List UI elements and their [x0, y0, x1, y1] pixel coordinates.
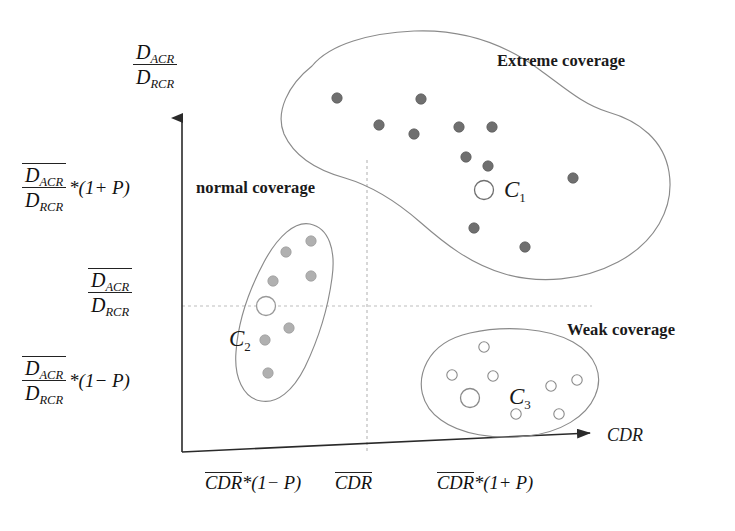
data-point [554, 409, 564, 419]
data-point [416, 94, 426, 104]
cluster-c1-points [332, 93, 578, 252]
data-point [268, 276, 278, 286]
region-label-normal: normal coverage [196, 180, 315, 197]
data-point [263, 368, 273, 378]
data-point [281, 247, 291, 257]
region-label-extreme: Extreme coverage [497, 53, 625, 70]
x-tick-right-base: CDR [437, 472, 474, 493]
data-point [306, 236, 316, 246]
cluster-c3-name: C [509, 384, 524, 409]
x-tick-right-suffix: *(1+ P) [474, 473, 533, 493]
y-tick-lower: DACR DRCR *(1− P) [22, 356, 130, 404]
data-point [469, 223, 479, 233]
data-point [306, 271, 316, 281]
data-point [483, 161, 493, 171]
cluster-c1-label: C1 [504, 178, 526, 201]
data-point [520, 242, 530, 252]
cluster-c3-label: C3 [509, 385, 531, 408]
data-point [409, 129, 419, 139]
cluster-outline-c3 [421, 329, 598, 438]
data-point [546, 381, 556, 391]
cluster-c3-sub: 3 [524, 397, 531, 412]
diagram-svg [0, 0, 735, 531]
y-tick-mid: DACR DRCR [88, 268, 135, 316]
cluster-c1-sub: 1 [519, 190, 526, 205]
data-point [487, 122, 497, 132]
data-point [488, 371, 498, 381]
x-tick-center: CDR [335, 472, 372, 493]
y-tick-upper: DACR DRCR *(1+ P) [22, 163, 130, 211]
x-tick-center-base: CDR [335, 472, 372, 493]
data-point [572, 375, 582, 385]
data-point [568, 173, 578, 183]
data-point [374, 120, 384, 130]
x-tick-left-suffix: *(1− P) [242, 473, 301, 493]
data-point [479, 342, 489, 352]
data-point [332, 93, 342, 103]
cluster-c1-name: C [504, 177, 519, 202]
cluster-c3-centroid [461, 389, 480, 408]
x-tick-left-base: CDR [205, 472, 242, 493]
data-point [511, 409, 521, 419]
x-tick-right: CDR*(1+ P) [437, 472, 533, 493]
cluster-c2-centroid [257, 297, 276, 316]
data-point [454, 122, 464, 132]
cluster-c2-sub: 2 [244, 339, 251, 354]
x-tick-left: CDR*(1− P) [205, 472, 301, 493]
figure-canvas: DACR DRCR DACR DRCR *(1+ P) DACR [0, 0, 735, 531]
cluster-c2-name: C [229, 326, 244, 351]
cluster-c2-label: C2 [229, 327, 251, 350]
data-point [260, 335, 270, 345]
x-axis-name: CDR [607, 426, 643, 444]
y-tick-lower-suffix: *(1− P) [66, 371, 130, 390]
data-point [447, 370, 457, 380]
y-axis-title: DACR DRCR [133, 42, 177, 88]
data-point [461, 152, 471, 162]
cluster-c1-centroid [475, 181, 494, 200]
data-point [284, 323, 294, 333]
region-label-weak: Weak coverage [567, 322, 675, 339]
y-tick-upper-suffix: *(1+ P) [66, 178, 130, 197]
